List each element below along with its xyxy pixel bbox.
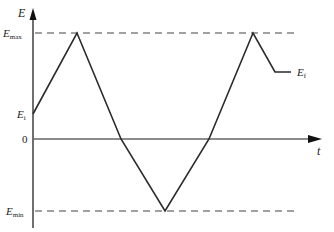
waveform-line — [33, 33, 291, 211]
zero-label: 0 — [22, 133, 28, 145]
t-axis-arrow-icon — [308, 135, 322, 143]
e-axis-label: E — [17, 6, 26, 20]
t-axis-label: t — [317, 144, 321, 158]
emin-label: Emin — [5, 205, 24, 219]
emax-label: Emax — [2, 27, 22, 41]
e-axis-arrow-icon — [30, 8, 37, 20]
ei-label: Ei — [16, 108, 26, 122]
ef-label: Ef — [296, 66, 307, 80]
waveform-diagram: E t Emax Ei 0 Emin Ef — [0, 0, 334, 232]
